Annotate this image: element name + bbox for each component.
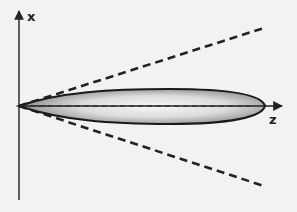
x-axis-label: x: [27, 9, 36, 24]
z-axis-label: z: [269, 112, 277, 127]
diagram-canvas: x z: [0, 0, 297, 212]
